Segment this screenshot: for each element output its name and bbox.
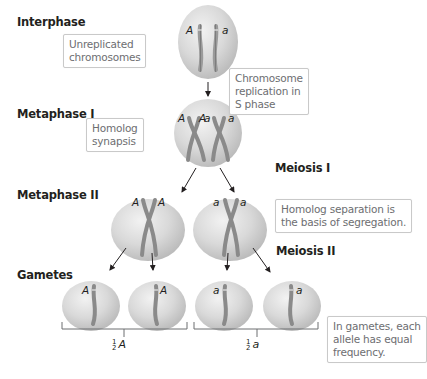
svg-text:A: A <box>81 284 89 296</box>
svg-text:a: a <box>296 284 302 296</box>
note-synapsis: Homolog synapsis <box>86 118 144 152</box>
allele-label: a <box>222 24 228 36</box>
note-frequency: In gametes, each allele has equal freque… <box>327 316 427 363</box>
svg-text:A: A <box>177 112 185 124</box>
gamete-a2: a <box>263 281 321 331</box>
svg-text:A: A <box>157 196 165 208</box>
svg-text:a: a <box>213 284 219 296</box>
arrow-icon <box>182 168 196 192</box>
arrow-icon <box>110 248 126 270</box>
note-segregation: Homolog separation is the basis of segre… <box>275 199 412 233</box>
arrow-icon <box>220 168 234 192</box>
svg-text:A: A <box>159 284 167 296</box>
svg-text:A: A <box>131 196 139 208</box>
chromosome-a <box>215 26 217 70</box>
allele-label: A <box>185 24 193 36</box>
fraction-label-A: 12A <box>112 338 126 351</box>
gamete-A2: A <box>128 281 186 331</box>
metaphase2-cell-A: A A <box>111 196 185 261</box>
chromosome-A <box>200 26 202 70</box>
stage-label-meiosis1: Meiosis I <box>275 161 330 175</box>
note-replication: Chromosome replication in S phase <box>229 68 309 115</box>
svg-text:a: a <box>204 112 210 124</box>
arrow-icon <box>253 248 270 272</box>
gamete-A1: A <box>62 281 120 331</box>
gamete-a1: a <box>195 281 253 331</box>
svg-text:a: a <box>213 196 219 208</box>
stage-label-metaphase1: Metaphase I <box>17 107 94 121</box>
note-unreplicated: Unreplicated chromosomes <box>63 34 146 68</box>
stage-label-meiosis2: Meiosis II <box>276 244 335 258</box>
fraction-label-a: 12a <box>246 338 259 351</box>
stage-label-metaphase2: Metaphase II <box>17 188 99 202</box>
stage-label-interphase: Interphase <box>17 15 85 29</box>
stage-label-gametes: Gametes <box>17 268 73 282</box>
svg-text:a: a <box>240 196 246 208</box>
